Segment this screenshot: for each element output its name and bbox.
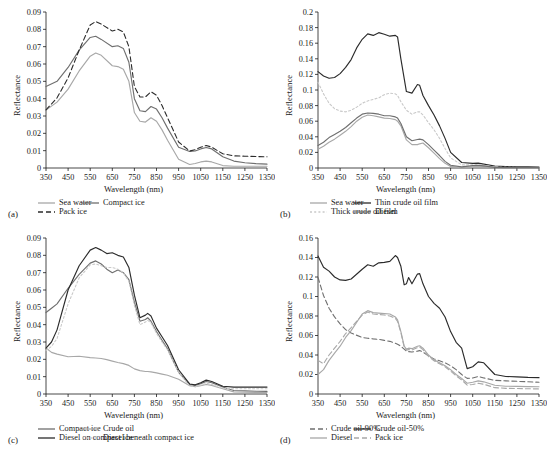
y-tick-label: 0.05 [27,303,41,312]
figure-spectral-reflectance-panels: 00.010.020.030.040.050.060.070.080.09350… [0,0,551,452]
y-axis-title: Reflectance [284,301,294,342]
legend-swatch-icon [38,199,55,207]
legend-item: Compact ice [82,198,192,207]
panel-a: 00.010.020.030.040.050.060.070.080.09350… [0,0,275,226]
x-axis-title: Wavelength (nm) [295,410,516,420]
legend-item: Pack ice [38,207,80,216]
series-line-c-1 [46,348,267,393]
x-tick-label: 1350 [531,399,547,408]
legend-row: Sea waterThin crude oil film [272,198,547,207]
legend-label: Compact ice [103,198,145,207]
y-tick-label: 0.02 [27,355,41,364]
legend-swatch-icon [310,425,327,433]
x-tick-label: 650 [106,173,118,182]
y-axis-title: Reflectance [12,301,22,342]
y-tick-label: 0.14 [299,253,313,262]
x-tick-label: 850 [422,173,434,182]
y-tick-label: 0.14 [299,55,313,64]
legend-swatch-icon [82,199,99,207]
legend-item: Crude oil-90% [310,424,352,433]
y-tick-label: 0.03 [27,338,41,347]
legend-label: Thin crude oil film [375,198,438,207]
legend-row: Sea waterCompact ice [0,198,275,207]
legend-item: Pack ice [354,433,464,442]
x-tick-label: 550 [84,173,96,182]
legend-swatch-icon [310,434,327,442]
y-tick-label: 0.04 [299,133,313,142]
axis-lines [46,238,267,394]
y-tick-label: 0.05 [27,77,41,86]
y-tick-label: 0.02 [27,129,41,138]
x-tick-label: 550 [356,399,368,408]
x-tick-label: 350 [312,399,324,408]
legend-c: Compact iceCrude oilDiesel on compact ic… [0,424,275,442]
legend-item: Thick crude oil film [310,207,352,216]
series-line-c-3 [46,264,267,389]
legend-label: Pack ice [375,433,403,442]
x-tick-label: 850 [150,399,162,408]
x-tick-label: 1250 [509,173,525,182]
x-tick-label: 550 [356,173,368,182]
panel-d: 00.020.040.060.080.10.120.140.1635045055… [272,226,547,452]
y-tick-label: 0 [37,390,41,399]
x-tick-label: 750 [400,399,412,408]
y-tick-label: 0 [37,164,41,173]
y-tick-label: 0.02 [299,370,313,379]
x-tick-label: 450 [334,399,346,408]
legend-item: Crude oil-50% [354,424,464,433]
x-tick-label: 1050 [193,173,209,182]
legend-row: Crude oil-90%Crude oil-50% [272,424,547,433]
y-tick-label: 0.04 [299,351,313,360]
panel-b: 00.020.040.060.080.10.120.140.160.180.23… [272,0,547,226]
legend-swatch-icon [38,434,55,442]
legend-row: DieselPack ice [272,433,547,442]
x-tick-label: 1250 [509,399,525,408]
y-tick-label: 0.08 [27,251,41,260]
x-tick-label: 1050 [193,399,209,408]
x-tick-label: 950 [172,399,184,408]
legend-swatch-icon [38,208,55,216]
series-line-b-1 [318,33,539,167]
x-tick-label: 650 [378,399,390,408]
x-tick-label: 450 [62,173,74,182]
y-axis-title: Reflectance [12,75,22,116]
x-tick-label: 850 [422,399,434,408]
y-tick-label: 0.08 [299,102,313,111]
y-tick-label: 0.06 [27,286,41,295]
y-tick-label: 0.04 [27,95,41,104]
legend-row: Pack ice [0,207,275,216]
y-tick-label: 0.03 [27,112,41,121]
legend-item: Diesel [354,207,464,216]
y-tick-label: 0.18 [299,24,313,33]
series-line-d-2 [318,311,539,387]
legend-swatch-icon [354,208,371,216]
legend-row: Diesel on compact iceDiesel beneath comp… [0,433,275,442]
x-tick-label: 350 [312,173,324,182]
x-tick-label: 750 [128,173,140,182]
y-tick-label: 0.12 [299,273,313,282]
x-tick-label: 1150 [215,173,231,182]
x-tick-label: 650 [378,173,390,182]
panel-c: 00.010.020.030.040.050.060.070.080.09350… [0,226,275,452]
x-tick-label: 1350 [531,173,547,182]
panel-tag-a: (a) [8,209,18,219]
legend-swatch-icon [354,434,371,442]
y-tick-label: 0.12 [299,70,313,79]
y-tick-label: 0.06 [299,117,313,126]
legend-d: Crude oil-90%Crude oil-50%DieselPack ice [272,424,547,442]
series-line-b-2 [318,82,539,167]
series-line-a-1 [46,36,267,164]
series-line-c-0 [46,261,267,392]
legend-row: Compact iceCrude oil [0,424,275,433]
x-tick-label: 650 [106,399,118,408]
x-tick-label: 450 [62,399,74,408]
x-tick-label: 950 [172,173,184,182]
x-axis-title: Wavelength (nm) [23,410,244,420]
x-tick-label: 1250 [237,399,253,408]
legend-item: Thin crude oil film [354,198,464,207]
legend-label: Crude oil [103,424,134,433]
legend-item: Diesel on compact ice [38,433,80,442]
y-tick-label: 0.09 [27,234,41,243]
y-tick-label: 0.16 [299,234,313,243]
legend-item: Compact ice [38,424,80,433]
